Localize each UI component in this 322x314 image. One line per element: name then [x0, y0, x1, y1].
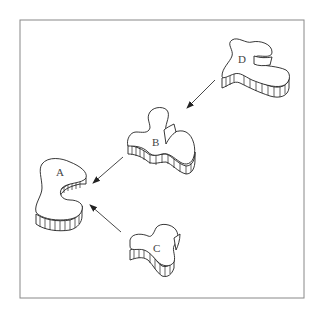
shape-a: A	[36, 159, 87, 232]
label-c: C	[153, 242, 160, 254]
shape-b: B	[127, 108, 195, 175]
label-a: A	[56, 166, 64, 178]
label-b: B	[152, 136, 159, 148]
arrow-d-to-b	[187, 80, 215, 108]
arrow-b-to-a	[93, 157, 123, 183]
arrow-c-to-a	[90, 205, 121, 232]
shape-d: D	[222, 39, 289, 97]
label-d: D	[238, 53, 246, 65]
shape-c: C	[130, 224, 180, 276]
diagram-canvas: D B A	[0, 0, 322, 314]
